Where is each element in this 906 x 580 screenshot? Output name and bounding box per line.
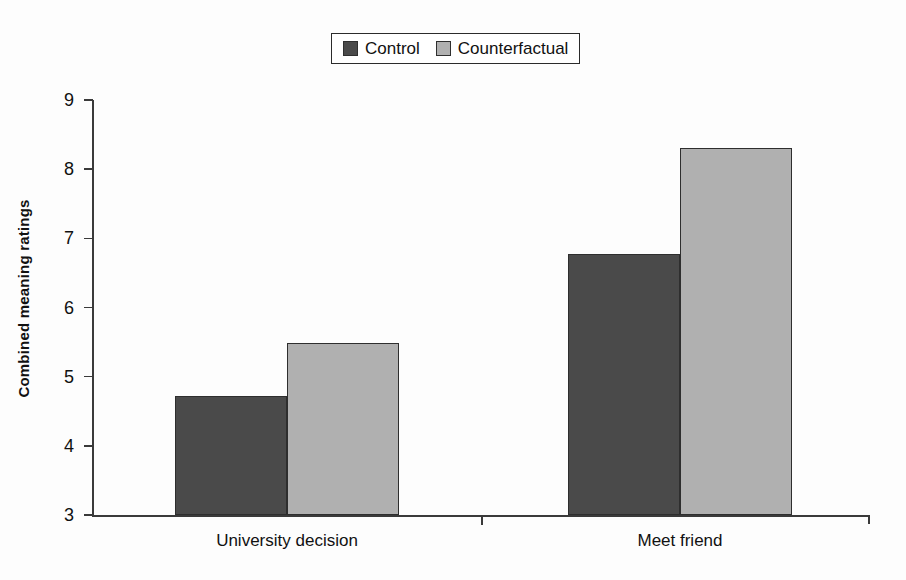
y-axis-tick-label-8: 8 — [50, 160, 74, 178]
y-axis-tick-label-4: 4 — [50, 437, 74, 455]
y-axis-tick-label-6: 6 — [50, 299, 74, 317]
y-axis-tick-label-7: 7 — [50, 229, 74, 247]
bar-counterfactual-meet-friend — [680, 148, 792, 515]
legend-swatch-control — [343, 41, 358, 56]
y-axis-tick-7 — [84, 238, 93, 240]
y-axis-tick-9 — [84, 99, 93, 101]
y-axis-tick-8 — [84, 168, 93, 170]
y-axis-title: Combined meaning ratings — [15, 134, 32, 464]
x-axis-label-meet-friend: Meet friend — [550, 531, 810, 550]
legend-entry-control: Control — [343, 40, 420, 57]
legend-label-counterfactual: Counterfactual — [458, 40, 569, 57]
y-axis-tick-3 — [84, 514, 93, 516]
bar-chart: Control Counterfactual Combined meaning … — [0, 0, 906, 580]
legend-entry-counterfactual: Counterfactual — [436, 40, 569, 57]
bar-control-meet-friend — [568, 254, 680, 515]
x-axis-group-separator-tick — [481, 515, 483, 525]
x-axis-right-cap — [868, 515, 870, 524]
y-axis-tick-labels: 3456789 — [46, 0, 74, 580]
y-axis-tick-6 — [84, 307, 93, 309]
bar-counterfactual-university-decision — [287, 343, 399, 515]
y-axis-tick-label-5: 5 — [50, 368, 74, 386]
y-axis-tick-label-9: 9 — [50, 91, 74, 109]
x-axis-label-university-decision: University decision — [157, 531, 417, 550]
y-axis-tick-4 — [84, 445, 93, 447]
y-axis-tick-5 — [84, 376, 93, 378]
y-axis-tick-label-3: 3 — [50, 506, 74, 524]
legend-label-control: Control — [365, 40, 420, 57]
legend-swatch-counterfactual — [436, 41, 451, 56]
bar-control-university-decision — [175, 396, 287, 515]
chart-legend: Control Counterfactual — [331, 33, 580, 64]
